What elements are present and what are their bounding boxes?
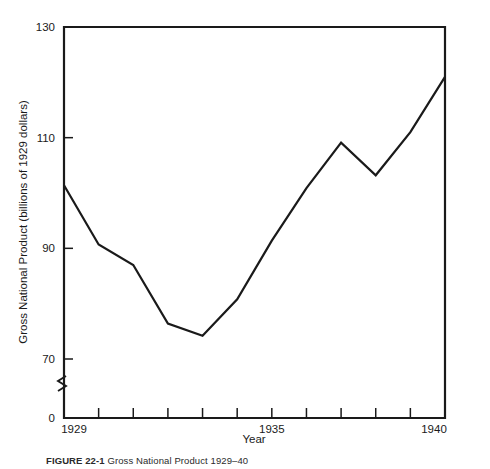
frame-border: [64, 27, 445, 418]
y-axis-ticks: 07090110130: [36, 21, 73, 424]
gnp-line: [64, 77, 445, 336]
figure-container: 07090110130 192919351940 Year Gross Nati…: [0, 0, 490, 469]
x-axis-ticks: 192919351940: [61, 408, 447, 435]
figure-number: FIGURE 22-1: [46, 455, 105, 466]
x-tick-label-1929: 1929: [61, 423, 87, 435]
y-tick-label-90: 90: [42, 242, 55, 254]
plot-frame: [64, 27, 445, 418]
figure-caption: FIGURE 22-1 Gross National Product 1929–…: [46, 455, 248, 466]
x-tick-label-1940: 1940: [421, 423, 447, 435]
y-tick-label-110: 110: [37, 132, 55, 144]
data-series-gnp: [64, 77, 445, 336]
figure-caption-text: Gross National Product 1929–40: [107, 455, 248, 466]
y-tick-label-70: 70: [42, 353, 55, 365]
y-tick-label-0: 0: [49, 412, 55, 424]
gnp-line-chart: 07090110130 192919351940 Year Gross Nati…: [0, 0, 490, 455]
y-axis-title: Gross National Product (billions of 1929…: [17, 100, 29, 344]
y-tick-label-130: 130: [36, 21, 55, 33]
x-axis-title: Year: [242, 433, 265, 445]
